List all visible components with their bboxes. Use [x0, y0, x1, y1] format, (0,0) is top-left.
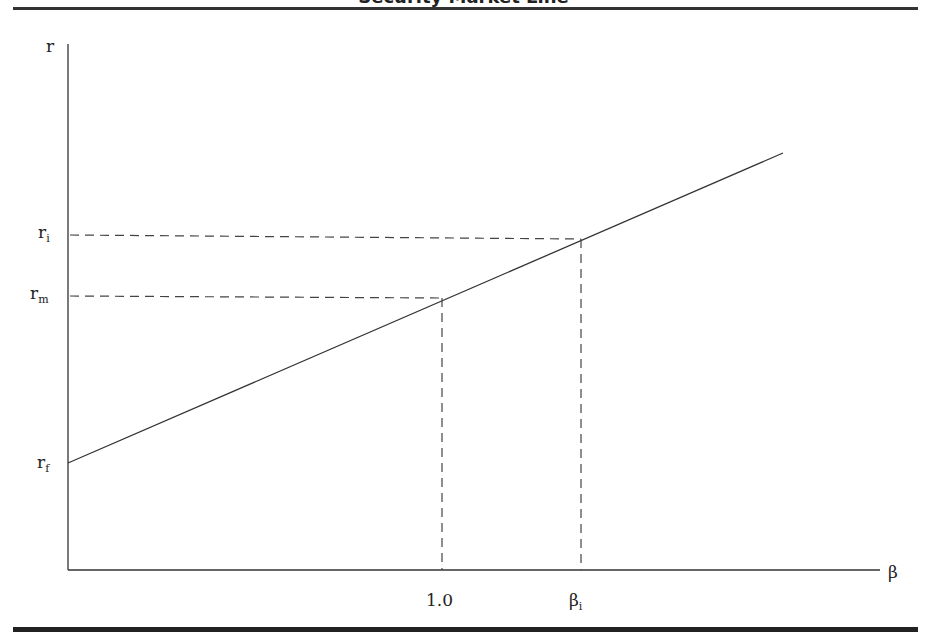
security-market-line: [68, 153, 783, 463]
y-tick-rm: rm: [30, 283, 49, 306]
y-axis-label: r: [46, 36, 54, 56]
chart-plot: [0, 0, 927, 641]
ri-guide-h: [70, 235, 581, 239]
y-tick-rf: rf: [37, 452, 49, 475]
x-tick-beta-i: βi: [569, 590, 582, 613]
x-tick-1: 1.0: [426, 590, 453, 610]
rm-guide-h: [70, 296, 442, 298]
y-tick-ri: ri: [38, 222, 50, 245]
x-axis-label: β: [888, 562, 898, 582]
